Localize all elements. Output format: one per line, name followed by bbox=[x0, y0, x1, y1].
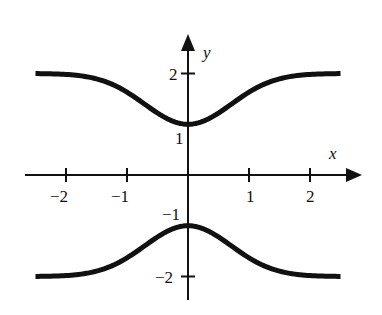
x-tick-label-2: 2 bbox=[306, 188, 315, 205]
x-tick-label-1: 1 bbox=[246, 188, 255, 205]
y-tick-label-neg2: −2 bbox=[155, 269, 173, 286]
y-tick-label-1: 1 bbox=[175, 130, 184, 147]
x-axis-arrow-icon bbox=[346, 168, 362, 182]
plot-area bbox=[0, 0, 382, 315]
y-tick-label-neg1: −1 bbox=[162, 206, 180, 223]
y-axis-label: y bbox=[203, 44, 211, 61]
x-axis-label: x bbox=[329, 145, 337, 162]
axes bbox=[25, 48, 350, 300]
x-tick-label-neg1: −1 bbox=[111, 188, 129, 205]
y-tick-label-2: 2 bbox=[169, 66, 178, 83]
y-axis-arrow-icon bbox=[181, 34, 195, 51]
x-tick-label-neg2: −2 bbox=[50, 188, 68, 205]
